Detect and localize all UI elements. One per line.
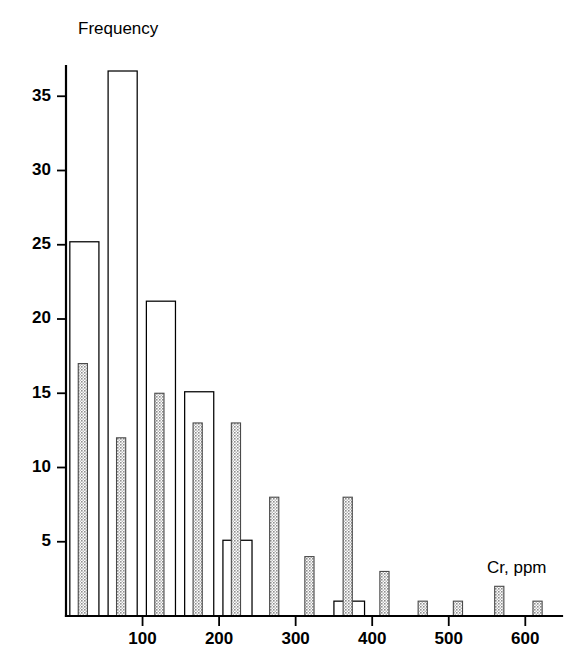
- x-tick-label: 600: [511, 629, 539, 648]
- shaded-bar: [193, 423, 202, 616]
- shaded-bar: [155, 393, 164, 616]
- shaded-bar: [343, 497, 352, 616]
- shaded-bar: [117, 438, 126, 616]
- x-axis-ticks: 100200300400500600: [128, 616, 539, 648]
- x-tick-label: 100: [128, 629, 156, 648]
- y-tick-label: 20: [32, 308, 51, 327]
- x-tick-label: 400: [358, 629, 386, 648]
- y-tick-label: 35: [32, 86, 51, 105]
- bars-layer: [70, 71, 542, 616]
- x-tick-label: 500: [435, 629, 463, 648]
- x-axis-title: Cr, ppm: [487, 558, 547, 577]
- shaded-bar: [270, 497, 279, 616]
- axes-layer: [66, 66, 562, 616]
- shaded-bar: [231, 423, 240, 616]
- y-tick-label: 15: [32, 383, 51, 402]
- shaded-bar: [533, 601, 542, 616]
- y-axis-ticks: 5101520253035: [32, 86, 66, 551]
- y-tick-label: 10: [32, 457, 51, 476]
- y-tick-label: 25: [32, 234, 51, 253]
- shaded-bar: [453, 601, 462, 616]
- y-tick-label: 30: [32, 160, 51, 179]
- y-axis-title: Frequency: [78, 19, 159, 38]
- x-tick-label: 200: [205, 629, 233, 648]
- x-tick-label: 300: [281, 629, 309, 648]
- shaded-bar: [418, 601, 427, 616]
- y-tick-label: 5: [42, 531, 51, 550]
- histogram-svg: 5101520253035 100200300400500600 Frequen…: [0, 0, 573, 664]
- shaded-bar: [78, 364, 87, 616]
- shaded-bar: [305, 557, 314, 616]
- shaded-bar: [380, 571, 389, 616]
- shaded-bar: [495, 586, 504, 616]
- histogram-figure: 5101520253035 100200300400500600 Frequen…: [0, 0, 573, 664]
